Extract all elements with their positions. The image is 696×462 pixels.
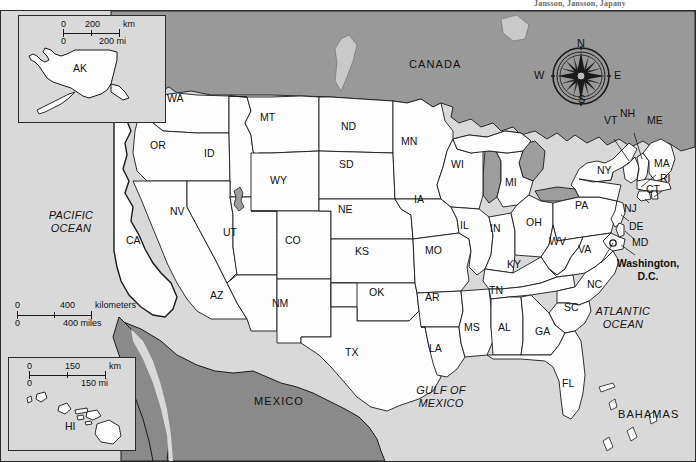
scalebar-km-zero: 0 [15, 301, 20, 310]
state-label-AZ: AZ [210, 290, 223, 301]
country-label-bahamas: BAHAMAS [618, 409, 680, 421]
state-label-MO: MO [425, 245, 442, 256]
alaska-scale-km-unit: km [123, 20, 135, 29]
main-scalebar: 0 400 kilometers 0 400 miles [15, 301, 127, 337]
state-label-UT: UT [223, 227, 237, 238]
island-maui [86, 410, 101, 420]
state-label-DE: DE [629, 221, 644, 232]
compass-east-label: E [614, 70, 621, 82]
state-label-MT: MT [260, 112, 275, 123]
water-label-atlantic-line1: ATLANTIC [579, 306, 667, 318]
island-niihau [27, 396, 32, 403]
hawaiian-islands [27, 392, 121, 444]
state-label-OR: OR [150, 140, 166, 151]
hawaii-scale-km-mid: 150 [65, 362, 80, 371]
map-page: Jansson, Jansson, Japany [0, 0, 696, 462]
state-label-IL: IL [460, 220, 469, 231]
state-label-WV: WV [549, 236, 566, 247]
state-label-WA: WA [167, 93, 184, 104]
state-label-MN: MN [401, 136, 417, 147]
alaska-scale-mi-zero: 0 [61, 37, 66, 46]
island-kauai [36, 392, 47, 402]
island-molokai [75, 408, 88, 414]
state-label-NV: NV [170, 206, 185, 217]
state-label-FL: FL [562, 378, 574, 389]
alaska-scale-km-mid: 200 [85, 20, 100, 29]
scalebar-km-unit: kilometers [95, 301, 136, 310]
island-kahoolawe [85, 421, 92, 425]
state-label-TN: TN [489, 285, 503, 296]
state-label-IA: IA [414, 194, 424, 205]
state-label-OH: OH [526, 217, 542, 228]
state-label-MA: MA [654, 158, 670, 169]
state-label-AL: AL [498, 322, 511, 333]
water-label-gulf-line1: GULF OF [401, 385, 481, 397]
island-hawaii [95, 420, 121, 444]
state-label-MI: MI [505, 177, 517, 188]
state-label-SC: SC [564, 302, 579, 313]
island-oahu [58, 403, 71, 414]
shape-MO [413, 233, 471, 293]
state-label-GA: GA [535, 326, 550, 337]
scalebar-mi-zero: 0 [15, 319, 20, 328]
state-label-NM: NM [272, 298, 288, 309]
alaska-scale-mi-label: 200 mi [99, 37, 126, 46]
state-label-AR: AR [425, 292, 440, 303]
hawaii-scale-mi-label: 150 mi [81, 379, 108, 388]
shape-SD [319, 151, 395, 199]
state-label-MD: MD [632, 237, 648, 248]
shape-AR [417, 291, 463, 327]
alaska-panhandle [111, 84, 129, 100]
compass-north-label: N [577, 38, 585, 50]
state-label-ID: ID [204, 148, 215, 159]
shape-KS [331, 239, 415, 283]
state-label-NH: NH [620, 108, 635, 119]
state-label-CT: CT [646, 184, 660, 195]
state-label-CA: CA [126, 235, 141, 246]
compass-south-label: S [578, 94, 585, 106]
hawaii-scalebar: 0 150 km 0 150 mi [27, 362, 133, 392]
hawaii-scale-mi-zero: 0 [27, 379, 32, 388]
hawaii-scale-km-unit: km [109, 362, 121, 371]
country-label-mexico: MEXICO [254, 396, 304, 408]
state-label-SD: SD [339, 159, 354, 170]
capital-label-line2: D.C. [603, 270, 693, 282]
water-label-pacific-line2: OCEAN [29, 223, 113, 235]
state-label-CO: CO [285, 235, 301, 246]
state-label-VA: VA [578, 244, 591, 255]
water-label-gulf-line2: MEXICO [401, 398, 481, 410]
state-label-TX: TX [345, 347, 358, 358]
state-label-ND: ND [341, 121, 356, 132]
compass-west-label: W [534, 70, 544, 82]
aleutian-chain [37, 92, 75, 114]
state-label-LA: LA [429, 343, 442, 354]
shape-NM [277, 279, 331, 343]
state-label-RI: RI [660, 173, 671, 184]
water-label-pacific-line1: PACIFIC [29, 210, 113, 222]
state-label-PA: PA [575, 200, 588, 211]
state-label-MS: MS [464, 322, 480, 333]
scalebar-mi-label: 400 miles [63, 319, 102, 328]
state-label-KY: KY [507, 259, 521, 270]
island-lanai [77, 415, 84, 420]
state-label-OK: OK [369, 287, 384, 298]
shape-OK-panhandle [331, 283, 357, 307]
hawaii-inset-label: HI [65, 421, 76, 432]
state-label-ME: ME [647, 115, 663, 126]
scalebar-km-mid: 400 [60, 301, 75, 310]
state-label-NJ: NJ [624, 203, 637, 214]
hawaii-inset: HI 0 150 km 0 150 mi [8, 357, 136, 451]
state-label-NE: NE [338, 204, 353, 215]
capital-label-line1: Washington, [603, 257, 693, 269]
alaska-scalebar: 0 200 km 0 200 mi [61, 20, 161, 50]
state-label-KS: KS [355, 246, 369, 257]
state-label-NC: NC [587, 279, 602, 290]
alaska-inset-label: AK [73, 63, 87, 74]
state-label-NY: NY [597, 165, 612, 176]
water-label-atlantic-line2: OCEAN [579, 319, 667, 331]
alaska-inset: AK 0 200 km 0 200 mi [18, 15, 166, 123]
country-label-canada: CANADA [409, 59, 461, 71]
state-label-WY: WY [270, 175, 287, 186]
state-label-IN: IN [490, 223, 501, 234]
state-label-WI: WI [451, 159, 464, 170]
